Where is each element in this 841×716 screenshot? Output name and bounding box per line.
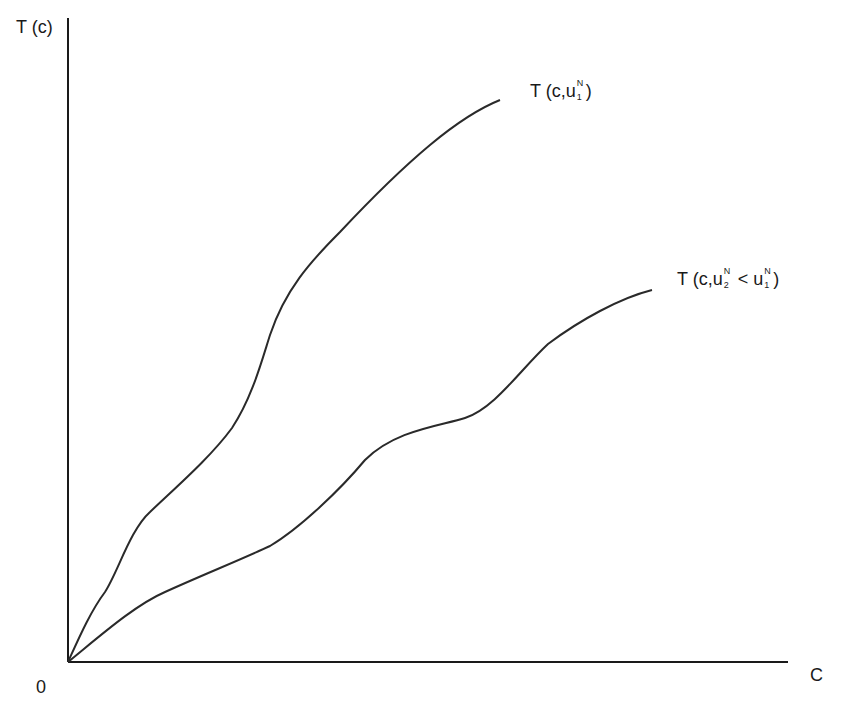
series-1-label: T (c,uN1) [530,82,592,100]
series-1-sup: N [577,79,584,88]
y-axis-label-text: T (c) [16,17,53,37]
series-2-sub-2: 1 [764,281,769,290]
x-axis-label: C [810,666,823,684]
series-2-label: T (c,uN2 < uN1) [677,270,779,288]
series-2-sup-2: N [764,267,771,276]
series-1-label-prefix: T (c,u [530,81,576,101]
series-2-sup-1: N [724,267,731,276]
curve-t-c-u2-lt-u1 [68,290,652,662]
series-1-label-suffix: ) [586,81,592,101]
origin-label: 0 [36,678,46,696]
series-1-sub: 1 [577,93,582,102]
chart-canvas [0,0,841,716]
series-2-subsup-2: N1 [764,270,773,288]
series-1-subsup: N1 [577,82,586,100]
curve-t-c-u1 [68,100,500,662]
series-2-subsup-1: N2 [724,270,733,288]
series-2-sub-1: 2 [724,281,729,290]
x-axis-label-text: C [810,665,823,685]
series-2-label-suffix: ) [773,269,779,289]
series-2-label-middle: < u [733,269,764,289]
series-2-label-prefix: T (c,u [677,269,723,289]
y-axis-label: T (c) [16,18,53,36]
origin-label-text: 0 [36,677,46,697]
